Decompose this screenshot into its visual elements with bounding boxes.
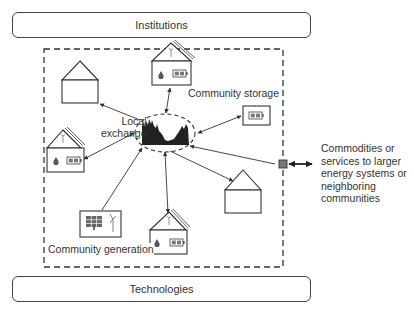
local-exchange-label: Local exchange bbox=[101, 115, 147, 139]
edge-hub-house-right bbox=[170, 151, 233, 181]
community-generation-box bbox=[80, 211, 121, 237]
external-systems-label: Commodities or services to larger energy… bbox=[321, 142, 414, 205]
community-generation-label: Community generation bbox=[48, 243, 154, 256]
house-top bbox=[152, 40, 195, 85]
edge-hub-storage bbox=[198, 116, 241, 133]
battery-icon bbox=[249, 112, 264, 119]
community-storage-box bbox=[243, 106, 270, 125]
battery-icon bbox=[170, 239, 185, 246]
edge-gateway-hub bbox=[190, 146, 275, 164]
technologies-bar: Technologies bbox=[12, 276, 311, 302]
battery-icon bbox=[173, 70, 188, 77]
local-exchange-line1: Local bbox=[101, 115, 147, 127]
edge-hub-house-bottom bbox=[165, 152, 168, 213]
technologies-label: Technologies bbox=[129, 283, 193, 295]
battery-icon bbox=[67, 157, 82, 164]
edge-generation-hub bbox=[102, 148, 142, 210]
house-left bbox=[47, 127, 85, 172]
local-exchange-line2: exchange bbox=[101, 127, 147, 139]
house-plain-right bbox=[225, 170, 261, 213]
house-bottom bbox=[150, 209, 190, 254]
house-plain-top-left bbox=[62, 61, 98, 103]
gateway-node bbox=[279, 160, 287, 168]
community-storage-label: Community storage bbox=[188, 87, 279, 100]
edge-hub-house-top bbox=[166, 88, 170, 113]
